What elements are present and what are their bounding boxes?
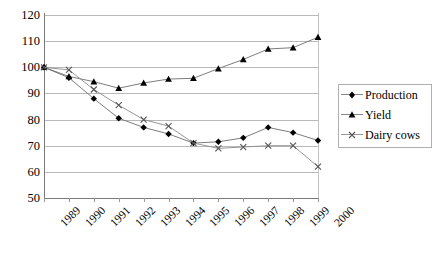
legend-item-production[interactable]: Production: [339, 85, 431, 105]
x-axis-tick-label: 1995: [207, 204, 232, 229]
x-axis-tick-mark: [268, 198, 269, 202]
diamond-marker-icon: [339, 85, 365, 105]
data-point-cross: [166, 123, 172, 129]
legend-item-yield[interactable]: Yield: [339, 105, 431, 125]
data-point-diamond: [140, 124, 146, 130]
x-axis-tick-mark: [119, 198, 120, 202]
data-point-diamond: [240, 135, 246, 141]
data-point-cross: [116, 102, 122, 108]
chart-root: 5060708090100110120 19891990199119921993…: [0, 0, 435, 259]
x-axis-tick-mark: [69, 198, 70, 202]
x-axis-tick-label: 1994: [182, 204, 207, 229]
x-axis-tick-mark: [44, 198, 45, 202]
data-point-diamond: [265, 124, 271, 130]
x-axis-tick-label: 2000: [332, 204, 357, 229]
cross-marker-icon: [339, 125, 365, 145]
x-axis-tick-mark: [94, 198, 95, 202]
x-axis-tick-mark: [193, 198, 194, 202]
x-axis-tick-mark: [218, 198, 219, 202]
x-axis-tick-label: 1998: [282, 204, 307, 229]
x-axis-tick-label: 1993: [157, 204, 182, 229]
legend-label-production: Production: [365, 88, 418, 103]
x-axis-tick-mark: [243, 198, 244, 202]
x-axis-tick-label: 1992: [132, 204, 157, 229]
series-line-dairy-cows: [44, 67, 318, 166]
x-axis-tick-mark: [144, 198, 145, 202]
legend-item-dairy-cows[interactable]: Dairy cows: [339, 125, 431, 145]
data-point-cross: [315, 164, 321, 170]
data-point-diamond: [315, 137, 321, 143]
chart-legend: Production Yield Dairy cows: [338, 84, 432, 148]
x-axis-tick-label: 1991: [108, 204, 133, 229]
data-point-diamond: [165, 131, 171, 137]
legend-label-dairy-cows: Dairy cows: [365, 128, 420, 143]
triangle-marker-icon: [339, 105, 365, 125]
data-point-diamond: [290, 129, 296, 135]
x-axis-tick-label: 1997: [257, 204, 282, 229]
data-point-diamond: [215, 139, 221, 145]
data-point-cross: [91, 87, 97, 93]
x-axis-tick-label: 1996: [232, 204, 257, 229]
x-axis-tick-label: 1990: [83, 204, 108, 229]
x-axis-tick-label: 1989: [58, 204, 83, 229]
x-axis-tick-mark: [293, 198, 294, 202]
data-point-triangle: [240, 56, 247, 62]
x-axis-tick-mark: [318, 198, 319, 202]
x-axis-tick-mark: [169, 198, 170, 202]
series-line-yield: [44, 37, 318, 88]
data-point-triangle: [315, 34, 322, 40]
data-point-cross: [141, 117, 147, 123]
x-axis-tick-label: 1999: [307, 204, 332, 229]
legend-label-yield: Yield: [365, 108, 391, 123]
data-point-triangle: [66, 73, 73, 79]
x-axis-labels: 1989199019911992199319941995199619971998…: [0, 200, 435, 259]
data-point-triangle: [215, 65, 222, 71]
